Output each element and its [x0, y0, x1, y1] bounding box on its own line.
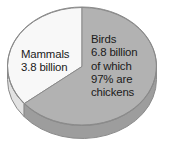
pie-chart-graphic — [0, 0, 171, 153]
pie-chart: Mammals 3.8 billion Birds 6.8 billion of… — [0, 0, 171, 153]
